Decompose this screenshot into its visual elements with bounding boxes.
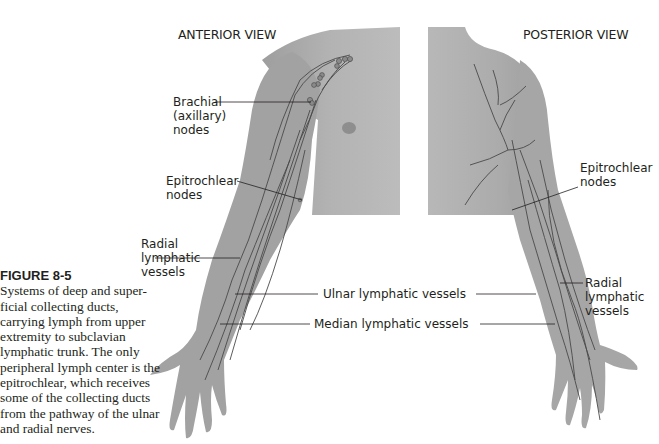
- caption-line: and radial nerves.: [0, 421, 180, 436]
- caption-line: some of the collecting ducts: [0, 390, 180, 405]
- label-ulnar-vessels: Ulnar lymphatic vessels: [320, 287, 469, 301]
- label-epitrochlear-anterior: Epitrochlear nodes: [166, 174, 238, 202]
- label-line: nodes: [173, 123, 226, 137]
- label-line: Brachial: [173, 95, 226, 109]
- label-median-vessels: Median lymphatic vessels: [312, 317, 471, 331]
- caption-line: carrying lymph from upper: [0, 314, 180, 329]
- anterior-figure: [150, 27, 400, 438]
- caption-line: lymphatic trunk. The only: [0, 344, 180, 359]
- caption-line: extremity to subclavian: [0, 329, 180, 344]
- posterior-figure: [428, 27, 638, 428]
- label-line: Epitrochlear: [580, 161, 652, 175]
- label-epitrochlear-posterior: Epitrochlear nodes: [580, 161, 652, 189]
- figure-caption: FIGURE 8-5 Systems of deep and super- fi…: [0, 268, 180, 436]
- caption-line: ficial collecting ducts,: [0, 299, 180, 314]
- posterior-view-title: POSTERIOR VIEW: [523, 27, 628, 42]
- label-line: nodes: [580, 175, 652, 189]
- label-brachial-nodes: Brachial (axillary) nodes: [173, 95, 226, 137]
- caption-line: from the pathway of the ulnar: [0, 406, 180, 421]
- caption-line: epitrochlear, which receives: [0, 375, 180, 390]
- label-radial-posterior: Radial lymphatic vessels: [585, 276, 644, 318]
- label-line: (axillary): [173, 109, 226, 123]
- figure-number: FIGURE 8-5: [0, 268, 180, 283]
- label-line: lymphatic: [141, 251, 200, 265]
- label-line: Radial: [141, 237, 200, 251]
- anterior-view-title: ANTERIOR VIEW: [178, 27, 276, 42]
- label-line: Epitrochlear: [166, 174, 238, 188]
- label-line: nodes: [166, 188, 238, 202]
- label-line: vessels: [585, 304, 644, 318]
- caption-line: peripheral lymph center is the: [0, 360, 180, 375]
- label-line: lymphatic: [585, 290, 644, 304]
- label-line: Radial: [585, 276, 644, 290]
- caption-line: Systems of deep and super-: [0, 283, 180, 298]
